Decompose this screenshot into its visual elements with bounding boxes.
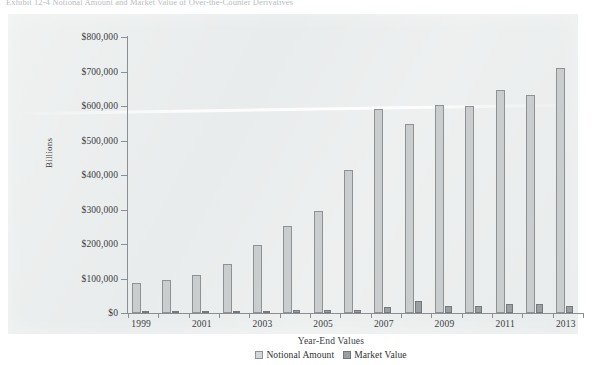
bar-market-2002: [233, 311, 240, 313]
x-tick: [553, 313, 554, 318]
bar-market-2008: [415, 301, 422, 313]
y-tick: [121, 141, 127, 142]
bar-market-1999: [142, 311, 149, 313]
y-tick: [121, 244, 127, 245]
x-tick: [462, 313, 463, 318]
x-tick-label-2009: 2009: [435, 319, 455, 329]
bar-market-2013: [566, 306, 573, 313]
bar-market-2010: [475, 306, 482, 313]
bar-notional-2002: [223, 264, 232, 313]
y-tick-label: $0: [108, 308, 118, 318]
y-tick: [121, 37, 127, 38]
bar-market-2007: [384, 307, 391, 313]
x-tick: [340, 313, 341, 318]
x-tick: [401, 313, 402, 318]
bar-notional-1999: [132, 283, 141, 313]
legend-item-notional-amount: Notional Amount: [255, 350, 334, 360]
x-tick: [128, 313, 129, 318]
legend-swatch-icon: [255, 351, 263, 359]
x-tick: [431, 313, 432, 318]
legend-label: Notional Amount: [266, 350, 334, 360]
bar-market-2000: [172, 311, 179, 313]
bar-market-2003: [263, 311, 270, 313]
y-tick-label: $100,000: [82, 274, 118, 284]
x-tick: [583, 313, 584, 318]
bar-market-2012: [536, 304, 543, 313]
bar-market-2006: [354, 310, 361, 313]
bar-notional-2004: [283, 226, 292, 313]
legend-label: Market Value: [354, 350, 406, 360]
y-tick-label: $600,000: [82, 101, 118, 111]
x-tick: [371, 313, 372, 318]
y-tick-label: $300,000: [82, 205, 118, 215]
bar-market-2009: [445, 306, 452, 313]
bar-notional-2010: [465, 106, 474, 313]
bar-notional-2006: [344, 170, 353, 313]
x-tick-label-1999: 1999: [131, 319, 151, 329]
bar-market-2005: [324, 310, 331, 313]
x-tick: [492, 313, 493, 318]
y-tick: [121, 106, 127, 107]
y-tick-label: $200,000: [82, 239, 118, 249]
chart-page: Exhibit 12-4 Notional Amount and Market …: [0, 0, 606, 365]
y-tick: [121, 175, 127, 176]
x-axis-title: Year-End Values: [0, 336, 606, 346]
bar-notional-2012: [526, 95, 535, 313]
x-tick-label-2003: 2003: [253, 319, 273, 329]
bar-market-2011: [506, 304, 513, 313]
y-tick: [121, 313, 127, 314]
x-axis-line: [127, 313, 584, 314]
y-axis-title: Billions: [44, 138, 54, 168]
bar-notional-2011: [496, 90, 505, 313]
bar-notional-2007: [374, 109, 383, 313]
x-tick: [249, 313, 250, 318]
x-tick-label-2001: 2001: [192, 319, 212, 329]
plot-area: [128, 37, 583, 313]
x-tick-label-2013: 2013: [556, 319, 576, 329]
x-tick: [219, 313, 220, 318]
bar-notional-2008: [405, 124, 414, 313]
y-tick: [121, 210, 127, 211]
x-tick: [189, 313, 190, 318]
y-tick-label: $400,000: [82, 170, 118, 180]
x-tick: [280, 313, 281, 318]
x-tick: [522, 313, 523, 318]
y-tick-label: $800,000: [82, 32, 118, 42]
x-tick: [310, 313, 311, 318]
x-tick-label-2005: 2005: [313, 319, 333, 329]
legend-item-market-value: Market Value: [343, 350, 406, 360]
bar-notional-2005: [314, 211, 323, 313]
y-tick-label: $500,000: [82, 136, 118, 146]
y-tick: [121, 279, 127, 280]
y-tick: [121, 72, 127, 73]
y-tick-label: $700,000: [82, 67, 118, 77]
x-tick-label-2011: 2011: [495, 319, 514, 329]
chart-legend: Notional AmountMarket Value: [0, 350, 606, 360]
bar-notional-2000: [162, 280, 171, 313]
bar-notional-2009: [435, 105, 444, 313]
legend-swatch-icon: [343, 351, 351, 359]
x-tick: [158, 313, 159, 318]
x-tick-label-2007: 2007: [374, 319, 394, 329]
bar-notional-2003: [253, 245, 262, 313]
bar-market-2001: [202, 311, 209, 313]
bar-notional-2013: [556, 68, 565, 313]
bar-market-2004: [293, 310, 300, 313]
bar-notional-2001: [192, 275, 201, 313]
y-axis-labels: $0$100,000$200,000$300,000$400,000$500,0…: [0, 0, 118, 365]
